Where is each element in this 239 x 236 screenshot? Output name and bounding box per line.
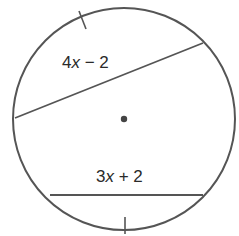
center-point — [121, 116, 127, 122]
lower-chord-label: 3x + 2 — [96, 168, 143, 185]
top-arc-tick-mark — [79, 11, 86, 29]
diagram-canvas — [0, 0, 239, 236]
circle-chord-diagram: 4x − 2 3x + 2 — [0, 0, 239, 236]
upper-constant: − 2 — [80, 53, 109, 72]
upper-chord — [15, 43, 203, 118]
upper-variable: x — [71, 53, 80, 72]
lower-variable: x — [105, 167, 114, 186]
upper-chord-label: 4x − 2 — [62, 54, 109, 71]
lower-constant: + 2 — [114, 167, 143, 186]
